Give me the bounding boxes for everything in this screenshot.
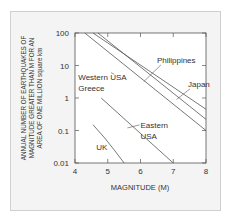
annotation-uk: UK: [96, 143, 108, 152]
annotation-eastern: Eastern: [141, 121, 169, 130]
y-tick-label: 100: [56, 29, 70, 38]
x-tick-label: 7: [171, 167, 176, 176]
x-tick-label: 5: [106, 167, 111, 176]
x-tick-label: 6: [138, 167, 143, 176]
x-tick-label: 4: [73, 167, 78, 176]
y-axis-label-line-3: AREA OF ONE MILLION square km: [36, 48, 44, 149]
y-tick-label: 0.1: [58, 127, 70, 136]
annotation-greece: Greece: [78, 84, 105, 93]
annotation-philippines: Philippines: [157, 56, 196, 65]
y-tick-label: 10: [60, 62, 69, 71]
plot-area: [75, 33, 206, 163]
chart: ANNUAL NUMBER OF EARTHQUAKES OF MAGNITUD…: [0, 0, 233, 216]
y-tick-label: 1: [65, 94, 70, 103]
y-axis-label: ANNUAL NUMBER OF EARTHQUAKES OF MAGNITUD…: [20, 36, 44, 161]
y-tick-label: 0.01: [53, 159, 69, 168]
x-tick-label: 8: [204, 167, 209, 176]
annotation-japan: Japan: [188, 80, 210, 89]
y-axis-label-line-2: MAGNITUDE GREATER THAN M FOR AN: [28, 37, 35, 158]
annotation-usa: USA: [141, 132, 158, 141]
y-axis-label-line-1: ANNUAL NUMBER OF EARTHQUAKES OF: [20, 36, 28, 161]
annotation-western-usa: Western USA: [78, 73, 127, 82]
x-axis-label: MAGNITUDE (M): [111, 183, 170, 192]
